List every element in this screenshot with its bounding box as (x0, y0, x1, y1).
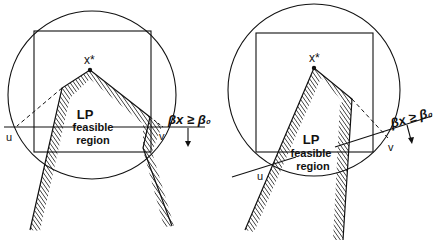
region-label-lp: LP (77, 107, 94, 122)
point-v-label: v (159, 130, 165, 142)
region-label-feasible: feasible (73, 121, 114, 133)
diagram-canvas: x* LP feasible region u v βx ≥ β₀ x* LP … (0, 0, 436, 246)
point-u-label: u (257, 170, 263, 182)
region-label-region: region (296, 160, 330, 172)
region-label-lp: LP (303, 132, 320, 147)
constraint-band-right (333, 99, 352, 240)
point-v-label: v (388, 141, 394, 153)
point-u-label: u (6, 131, 12, 143)
arrow-head-icon (408, 137, 414, 144)
optimum-label: x* (84, 53, 95, 67)
optimum-point (88, 68, 92, 72)
arrow-head-icon (185, 141, 191, 147)
optimum-point (312, 66, 316, 70)
figure-left: x* LP feasible region u v βx ≥ β₀ (4, 11, 211, 231)
constraint-band-top-right (90, 70, 150, 124)
figure-right: x* LP feasible region u v βx ≥ β₀ (228, 4, 434, 240)
optimum-label: x* (309, 51, 320, 65)
region-label-feasible: feasible (291, 147, 332, 159)
region-label-region: region (76, 134, 110, 146)
cut-label: βx ≥ β₀ (167, 112, 211, 127)
cut-label: βx ≥ β₀ (388, 105, 434, 132)
